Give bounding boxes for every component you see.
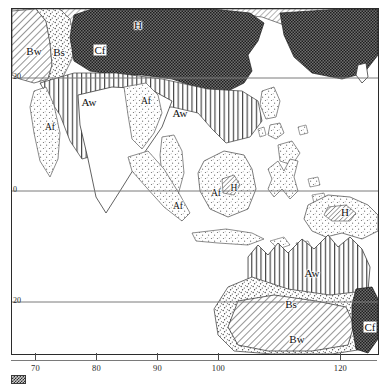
zone-af-java (192, 229, 264, 245)
x-tick-90 (157, 353, 158, 360)
x-tick-70 (35, 353, 36, 360)
x-tick-120 (340, 353, 341, 360)
figure-caption-strip (11, 374, 381, 385)
y-tick-label-20s: 20 (13, 296, 21, 305)
x-tick-label-80: 80 (92, 363, 101, 373)
y-tick-label-20n: 20 (13, 72, 21, 81)
x-tick-label-120: 120 (334, 363, 347, 373)
x-tick-label-90: 90 (153, 363, 162, 373)
y-tick-label-0: 0 (13, 185, 17, 194)
x-tick-100 (218, 353, 219, 360)
x-tick-80 (96, 353, 97, 360)
zone-af-philippines-sm1 (258, 127, 266, 137)
zone-af-philippines-sm2 (298, 125, 308, 135)
zone-af-sulawesi (268, 159, 298, 199)
zone-af-maluku-1 (308, 177, 320, 187)
map-canvas (12, 9, 378, 354)
x-tick-label-70: 70 (31, 363, 40, 373)
zone-cf-australia (352, 287, 378, 353)
map-frame: BwBsCfHAwAfAfAwAfAfHHAwBsBwCf (11, 8, 379, 355)
zone-af-philippines-n (260, 87, 280, 119)
zone-af-taiwan (356, 63, 368, 83)
x-axis-line (11, 360, 377, 361)
climate-map-figure: BwBsCfHAwAfAfAwAfAfHHAwBsBwCf 20 0 20 70… (0, 0, 385, 385)
legend-sample-swatch (11, 375, 26, 384)
x-tick-label-100: 100 (212, 363, 225, 373)
zone-af-philippines-c (268, 123, 284, 139)
